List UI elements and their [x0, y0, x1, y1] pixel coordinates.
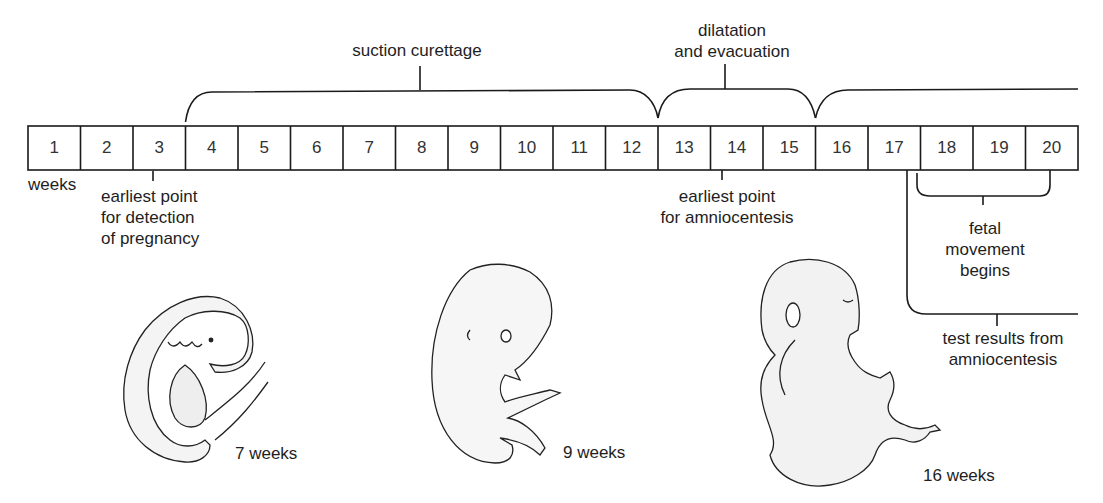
suction-curettage-label: suction curettage	[352, 40, 481, 61]
pregnancy-timeline-diagram: 1 2 3 4 5 6 7 8 9 10 11 12 13 14 15 16 1…	[0, 0, 1103, 503]
amniocentesis-line2: for amniocentesis	[660, 207, 793, 228]
amniocentesis-line1: earliest point	[679, 186, 775, 207]
week-box-19: 19	[973, 126, 1026, 170]
caption-16-weeks: 16 weeks	[923, 465, 995, 486]
fetus-9-weeks-icon	[432, 264, 560, 463]
week-box-7: 7	[343, 126, 396, 170]
pregnancy-detection-line2: for detection	[101, 207, 195, 228]
fetal-movement-line2: movement	[945, 239, 1024, 260]
embryo-7-weeks-icon	[124, 297, 268, 463]
week-box-3: 3	[133, 126, 186, 170]
fetal-movement-line1: fetal	[969, 218, 1001, 239]
week-box-17: 17	[868, 126, 921, 170]
week-box-14: 14	[711, 126, 764, 170]
fetus-16-weeks-icon	[761, 259, 940, 486]
week-box-9: 9	[448, 126, 501, 170]
week-box-4: 4	[186, 126, 239, 170]
week-box-11: 11	[553, 126, 606, 170]
week-box-8: 8	[396, 126, 449, 170]
late-procedure-bracket	[816, 89, 1079, 118]
week-box-15: 15	[763, 126, 816, 170]
week-box-16: 16	[816, 126, 869, 170]
week-box-20: 20	[1026, 126, 1079, 170]
caption-9-weeks: 9 weeks	[563, 442, 625, 463]
fetal-movement-line3: begins	[960, 260, 1010, 281]
week-box-10: 10	[501, 126, 554, 170]
weeks-unit-label: weeks	[28, 174, 76, 195]
dilatation-evacuation-bracket	[658, 89, 816, 118]
diagram-lines	[0, 0, 1103, 503]
fetal-movement-bracket	[917, 170, 1050, 196]
pregnancy-detection-line1: earliest point	[101, 186, 197, 207]
dilatation-label-line2: and evacuation	[674, 41, 789, 62]
week-box-12: 12	[606, 126, 659, 170]
test-results-line1: test results from	[943, 328, 1064, 349]
week-box-18: 18	[921, 126, 974, 170]
suction-curettage-bracket	[186, 90, 659, 122]
pregnancy-detection-line3: of pregnancy	[101, 228, 199, 249]
week-box-13: 13	[658, 126, 711, 170]
week-box-1: 1	[28, 126, 81, 170]
week-box-5: 5	[238, 126, 291, 170]
week-box-6: 6	[291, 126, 344, 170]
caption-7-weeks: 7 weeks	[235, 443, 297, 464]
test-results-line2: amniocentesis	[949, 349, 1058, 370]
week-box-2: 2	[81, 126, 134, 170]
dilatation-label-line1: dilatation	[698, 20, 766, 41]
